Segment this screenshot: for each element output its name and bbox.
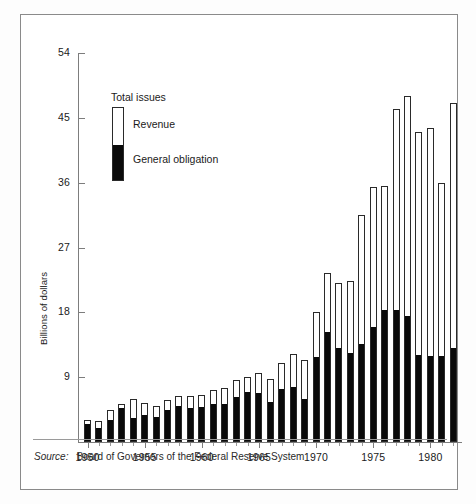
bar-segment-general-obligation <box>348 353 353 441</box>
bar <box>290 354 297 442</box>
bar <box>118 404 125 442</box>
y-tick-label: 27 <box>40 241 70 253</box>
y-tick <box>79 377 85 378</box>
chart-legend: Total issues Revenue General obligation <box>111 91 311 187</box>
x-tick <box>350 443 351 446</box>
x-tick <box>442 443 443 446</box>
chart-page: 91827364554 1950195519601965197019751980… <box>0 0 476 504</box>
bar-segment-general-obligation <box>256 393 261 441</box>
bar <box>438 183 445 442</box>
bar-segment-general-obligation <box>336 348 341 441</box>
bar <box>164 400 171 442</box>
x-tick <box>270 443 271 446</box>
bar <box>267 379 274 442</box>
bar <box>187 396 194 442</box>
y-tick-label: 36 <box>40 176 70 188</box>
source-label: Source: <box>34 451 68 462</box>
bar-segment-general-obligation <box>451 348 456 441</box>
x-tick <box>430 443 431 448</box>
bar-segment-general-obligation <box>371 327 376 441</box>
source-divider <box>33 439 447 440</box>
bar-segment-general-obligation <box>279 389 284 441</box>
x-tick-label: 1975 <box>353 451 393 463</box>
bar-segment-general-obligation <box>359 344 364 441</box>
bar <box>130 399 137 442</box>
bar <box>221 388 228 442</box>
bar-segment-general-obligation <box>142 415 147 441</box>
bar <box>347 281 354 442</box>
x-tick <box>453 443 454 446</box>
bar <box>255 373 262 442</box>
bar-segment-general-obligation <box>245 392 250 441</box>
bar-segment-general-obligation <box>439 356 444 441</box>
bar-segment-general-obligation <box>325 332 330 441</box>
bar <box>404 96 411 442</box>
bar <box>370 187 377 442</box>
bar <box>301 360 308 442</box>
bar <box>175 396 182 442</box>
x-tick <box>316 443 317 448</box>
x-tick <box>419 443 420 446</box>
bar <box>450 103 457 442</box>
bar <box>381 186 388 443</box>
bar-segment-general-obligation <box>176 406 181 441</box>
x-tick <box>385 443 386 446</box>
legend-label-revenue: Revenue <box>133 118 175 130</box>
y-tick <box>79 118 85 119</box>
chart-frame: 91827364554 1950195519601965197019751980… <box>20 14 458 490</box>
bar-segment-general-obligation <box>211 404 216 441</box>
bar-segment-general-obligation <box>199 407 204 441</box>
bar <box>153 406 160 442</box>
x-tick <box>110 443 111 446</box>
x-tick <box>293 443 294 446</box>
bar-segment-general-obligation <box>119 408 124 441</box>
y-tick <box>79 248 85 249</box>
bar-segment-general-obligation <box>428 356 433 441</box>
bar <box>313 312 320 442</box>
legend-swatch <box>112 107 124 181</box>
bar <box>244 377 251 442</box>
x-tick <box>248 443 249 446</box>
x-tick <box>202 443 203 448</box>
x-tick <box>99 443 100 446</box>
bar-segment-general-obligation <box>416 355 421 441</box>
y-tick-label: 9 <box>40 370 70 382</box>
bar-segment-general-obligation <box>188 408 193 441</box>
x-tick <box>396 443 397 446</box>
bar <box>324 273 331 442</box>
x-tick <box>213 443 214 446</box>
bar <box>358 215 365 442</box>
x-tick <box>168 443 169 446</box>
x-tick <box>179 443 180 446</box>
x-tick <box>236 443 237 446</box>
bar <box>210 390 217 442</box>
x-tick <box>282 443 283 446</box>
legend-label-general-obligation: General obligation <box>133 153 218 165</box>
x-tick <box>133 443 134 446</box>
y-tick-label: 45 <box>40 111 70 123</box>
bar <box>415 132 422 443</box>
bar-segment-general-obligation <box>268 402 273 441</box>
x-tick <box>88 443 89 448</box>
bar-segment-general-obligation <box>314 357 319 441</box>
x-tick <box>373 443 374 448</box>
legend-title: Total issues <box>111 91 166 103</box>
x-tick <box>339 443 340 446</box>
x-tick <box>145 443 146 448</box>
bar-segment-general-obligation <box>302 399 307 441</box>
bar-segment-general-obligation <box>165 410 170 441</box>
bar <box>198 395 205 443</box>
y-tick-label: 54 <box>40 46 70 58</box>
bar <box>427 128 434 442</box>
x-tick <box>259 443 260 448</box>
y-tick <box>79 183 85 184</box>
bar <box>278 363 285 442</box>
x-tick <box>122 443 123 446</box>
bar <box>233 380 240 442</box>
bar-segment-general-obligation <box>405 316 410 441</box>
bar <box>393 109 400 443</box>
x-tick <box>362 443 363 446</box>
x-tick <box>305 443 306 446</box>
x-tick <box>225 443 226 446</box>
bar-segment-general-obligation <box>234 397 239 441</box>
